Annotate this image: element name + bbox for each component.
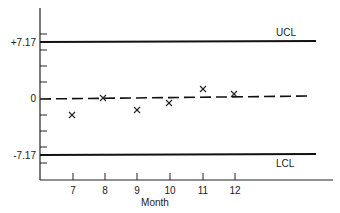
x-tick-label: 10 — [164, 185, 176, 196]
zero-label: 0 — [30, 93, 36, 104]
ucl-value-label: +7.17 — [11, 37, 37, 48]
point-month-9 — [134, 107, 140, 113]
x-tick-label: 9 — [134, 185, 140, 196]
x-tick-label: 11 — [198, 185, 209, 196]
lcl-value-label: -7.17 — [13, 150, 36, 161]
lcl-label: LCL — [276, 158, 295, 169]
point-month-10 — [166, 100, 172, 106]
data-points — [69, 86, 237, 118]
point-month-7 — [69, 112, 75, 118]
x-axis-title: Month — [141, 197, 169, 208]
control-chart: +7.17 0 -7.17 UCL LCL 7 8 9 10 11 12 Mon… — [0, 0, 340, 213]
x-ticks — [73, 173, 235, 180]
x-tick-label: 8 — [102, 185, 108, 196]
ucl-line — [40, 41, 316, 42]
x-tick-label: 12 — [229, 185, 241, 196]
lcl-line — [40, 154, 316, 155]
center-line — [40, 96, 311, 99]
ucl-label: UCL — [276, 27, 296, 38]
point-month-11 — [200, 86, 206, 92]
x-tick-label: 7 — [70, 185, 76, 196]
